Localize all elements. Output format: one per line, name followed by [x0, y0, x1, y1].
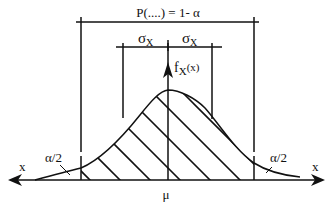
left-axis-label: x: [19, 159, 26, 174]
left-tail-label: α/2: [45, 150, 62, 165]
right-tail-label: α/2: [270, 150, 287, 165]
sigma-right-label: σX: [182, 30, 198, 48]
mean-label: μ: [163, 187, 170, 202]
normal-distribution-diagram: P(....) = 1- α σX σX fX(x) α/2 α/2 x x μ: [0, 0, 333, 208]
confidence-region-hatching: [60, 55, 320, 190]
sigma-left-label: σX: [138, 30, 154, 48]
right-axis-label: x: [312, 159, 319, 174]
density-function-label: fX(x): [174, 60, 200, 77]
probability-label: P(....) = 1- α: [136, 5, 200, 20]
